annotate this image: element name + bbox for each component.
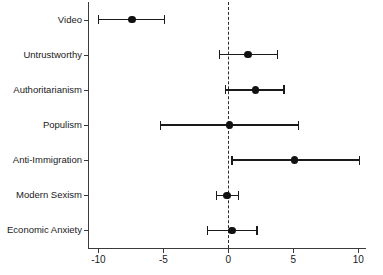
ci-cap-lower <box>98 15 99 24</box>
x-axis-tick-label: 10 <box>353 255 364 265</box>
ci-cap-lower <box>219 50 220 59</box>
y-axis-tick-label: Untrustworthy <box>23 50 82 60</box>
y-axis-tick <box>84 160 88 161</box>
x-axis-tick <box>358 248 359 253</box>
point-estimate-marker <box>226 121 234 129</box>
ci-cap-lower <box>160 121 161 130</box>
ci-cap-upper <box>256 226 257 235</box>
ci-cap-upper <box>283 85 284 94</box>
point-estimate-marker <box>228 227 236 235</box>
y-axis-tick <box>84 195 88 196</box>
ci-cap-upper <box>298 121 299 130</box>
ci-cap-lower <box>216 191 217 200</box>
y-axis-tick-label: Populism <box>43 120 82 130</box>
y-axis-tick <box>84 230 88 231</box>
x-axis-tick <box>293 248 294 253</box>
ci-cap-upper <box>359 156 360 165</box>
x-axis-tick-label: 0 <box>226 255 232 265</box>
x-axis-tick <box>163 248 164 253</box>
y-axis-tick <box>84 90 88 91</box>
ci-cap-lower <box>207 226 208 235</box>
y-axis-tick-label: Economic Anxiety <box>7 226 82 236</box>
point-estimate-marker <box>244 51 252 59</box>
x-axis-tick <box>228 248 229 253</box>
point-estimate-marker <box>291 156 299 164</box>
ci-cap-upper <box>277 50 278 59</box>
ci-cap-lower <box>231 156 232 165</box>
y-axis-tick <box>84 20 88 21</box>
x-axis-tick-label: -5 <box>159 255 168 265</box>
plot-area: VideoUntrustworthyAuthoritarianismPopuli… <box>88 2 366 248</box>
point-estimate-marker <box>223 192 231 200</box>
y-axis-tick-label: Authoritarianism <box>13 85 82 95</box>
point-estimate-marker <box>128 16 136 24</box>
y-axis-tick-label: Video <box>58 15 82 25</box>
y-axis-tick-label: Modern Sexism <box>16 191 82 201</box>
ci-cap-lower <box>225 85 226 94</box>
x-axis-tick-label: -10 <box>91 255 105 265</box>
y-axis-tick <box>84 55 88 56</box>
y-axis-tick <box>84 125 88 126</box>
x-axis-tick-label: 5 <box>290 255 296 265</box>
x-axis-tick <box>98 248 99 253</box>
point-estimate-marker <box>252 86 260 94</box>
y-axis-tick-label: Anti-Immigration <box>13 155 82 165</box>
ci-cap-upper <box>238 191 239 200</box>
coefficient-plot-figure: VideoUntrustworthyAuthoritarianismPopuli… <box>0 0 383 275</box>
x-axis-line <box>88 248 366 249</box>
ci-cap-upper <box>164 15 165 24</box>
